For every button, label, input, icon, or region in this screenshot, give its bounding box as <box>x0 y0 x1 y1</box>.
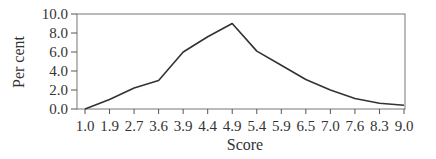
y-axis-label: Per cent <box>10 35 27 88</box>
y-tick-label: 10.0 <box>42 6 68 22</box>
data-series <box>85 24 404 110</box>
y-tick-label: 6.0 <box>49 44 68 60</box>
x-axis-label: Score <box>227 136 263 153</box>
x-axis-ticks: 1.01.92.73.63.94.44.95.45.96.57.07.68.39… <box>76 109 414 134</box>
x-tick-label: 1.9 <box>100 118 119 134</box>
y-axis-ticks: 0.02.04.06.08.010.0 <box>42 6 77 117</box>
x-tick-label: 2.7 <box>125 118 144 134</box>
y-tick-label: 8.0 <box>49 25 68 41</box>
x-tick-label: 1.0 <box>76 118 95 134</box>
x-tick-label: 4.9 <box>223 118 242 134</box>
x-tick-label: 5.4 <box>247 118 266 134</box>
y-tick-label: 2.0 <box>49 82 68 98</box>
x-tick-label: 6.5 <box>296 118 315 134</box>
x-tick-label: 9.0 <box>395 118 414 134</box>
y-tick-label: 0.0 <box>49 101 68 117</box>
x-tick-label: 5.9 <box>272 118 291 134</box>
x-tick-label: 7.6 <box>346 118 365 134</box>
x-tick-label: 3.6 <box>149 118 168 134</box>
series-line <box>85 24 404 110</box>
plot-frame <box>77 14 405 109</box>
x-tick-label: 4.4 <box>198 118 217 134</box>
x-tick-label: 8.3 <box>370 118 389 134</box>
x-tick-label: 7.0 <box>321 118 340 134</box>
x-tick-label: 3.9 <box>174 118 193 134</box>
y-tick-label: 4.0 <box>49 63 68 79</box>
plot-border <box>77 14 405 109</box>
line-chart: 0.02.04.06.08.010.0 1.01.92.73.63.94.44.… <box>0 0 436 159</box>
